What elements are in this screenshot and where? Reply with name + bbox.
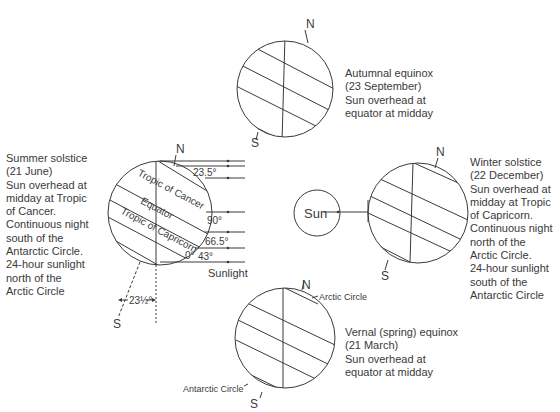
summer-caption: Summer solstice (21 June) Sun overhead a…	[6, 152, 89, 298]
angle-90: 90°	[207, 215, 222, 226]
summer-south-label: S	[113, 317, 121, 331]
winter-north-label: N	[436, 145, 445, 159]
autumnal-south-label: S	[251, 136, 259, 150]
autumnal-north-label: N	[306, 17, 315, 31]
autumnal-globe	[232, 30, 340, 142]
winter-globe	[368, 158, 468, 270]
vernal-caption: Vernal (spring) equinox (21 March) Sun o…	[345, 326, 458, 379]
antarctic-circle-label: Antarctic Circle	[183, 384, 244, 394]
winter-south-label: S	[381, 269, 389, 283]
arctic-circle-label: Arctic Circle	[319, 292, 367, 302]
winter-caption: Winter solstice (22 December) Sun overhe…	[470, 156, 553, 302]
autumnal-caption: Autumnal equinox (23 September) Sun over…	[345, 67, 433, 120]
sunlight-label: Sunlight	[208, 267, 248, 279]
summer-north-label: N	[176, 142, 185, 156]
vernal-south-label: S	[250, 397, 258, 411]
angle-0: 0°	[185, 250, 195, 261]
tilt-angle-label: 23½°	[129, 295, 152, 306]
vernal-north-label: N	[302, 278, 311, 292]
sun-label: Sun	[304, 206, 327, 221]
angle-66-5: 66.5°	[205, 236, 228, 247]
angle-43: 43°	[198, 251, 213, 262]
angle-23-5: 23.5°	[193, 167, 216, 178]
